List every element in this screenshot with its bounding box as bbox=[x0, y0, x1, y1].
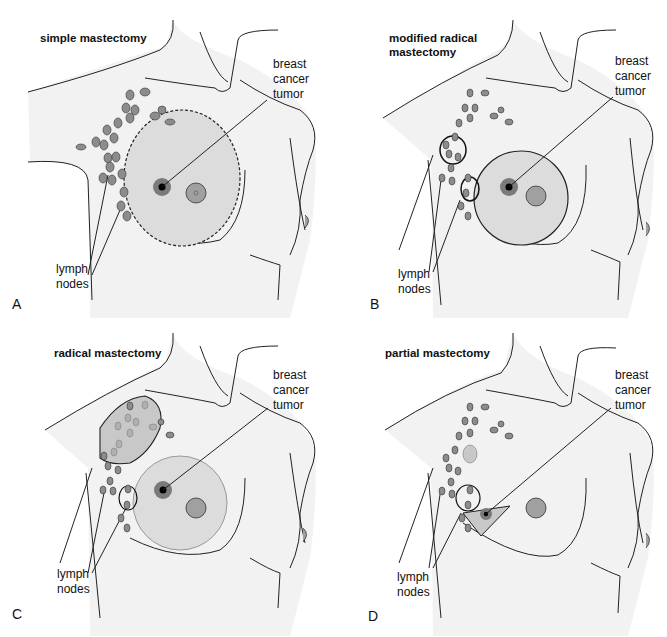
tumor-label: breast cancer tumor bbox=[273, 57, 309, 102]
panel-title: partial mastectomy bbox=[385, 346, 490, 360]
panel-partial-mastectomy: partial mastectomy breast cancer tumor l… bbox=[333, 318, 666, 636]
torso-illustration bbox=[0, 318, 333, 636]
panel-letter: B bbox=[370, 296, 379, 312]
panel-title: simple mastectomy bbox=[40, 31, 147, 45]
lymph-nodes-label: lymph nodes bbox=[397, 570, 430, 600]
panel-modified-radical-mastectomy: modified radical mastectomy breast cance… bbox=[333, 0, 666, 318]
panel-letter: C bbox=[12, 606, 22, 622]
tumor-label: breast cancer tumor bbox=[615, 54, 651, 99]
panel-title: radical mastectomy bbox=[54, 346, 161, 360]
panel-letter: A bbox=[12, 296, 21, 312]
panel-simple-mastectomy: simple mastectomy breast cancer tumor ly… bbox=[0, 0, 333, 318]
tumor-label: breast cancer tumor bbox=[273, 368, 309, 413]
torso-illustration bbox=[333, 318, 666, 636]
tumor-label: breast cancer tumor bbox=[615, 368, 651, 413]
panel-letter: D bbox=[368, 608, 378, 624]
panel-radical-mastectomy: radical mastectomy breast cancer tumor l… bbox=[0, 318, 333, 636]
lymph-nodes-label: lymph nodes bbox=[56, 262, 89, 292]
panel-title: modified radical mastectomy bbox=[389, 31, 477, 59]
lymph-nodes-label: lymph nodes bbox=[398, 267, 431, 297]
torso-illustration bbox=[0, 0, 333, 318]
lymph-nodes-label: lymph nodes bbox=[57, 567, 90, 597]
torso-illustration bbox=[333, 0, 666, 318]
